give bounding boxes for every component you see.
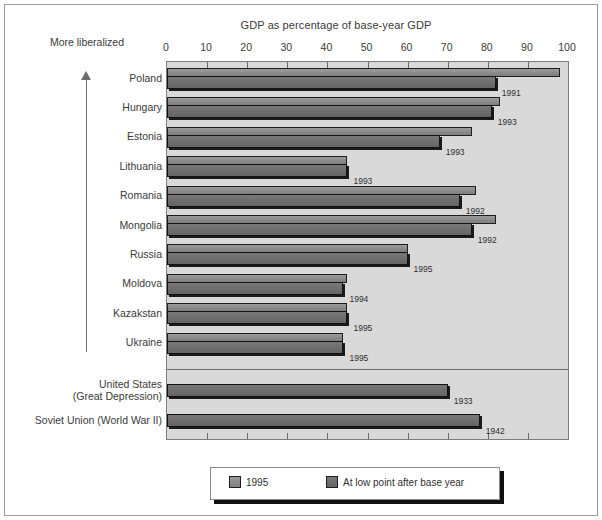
legend-label-1: At low point after base year	[343, 477, 464, 488]
category-label: Kazakstan	[12, 307, 162, 319]
x-tick-label-90: 90	[521, 41, 533, 53]
x-tick-bottom-10	[207, 433, 208, 439]
bar-row: 1993	[167, 156, 568, 180]
category-label: Ukraine	[12, 336, 162, 348]
x-tick-bottom-20	[247, 433, 248, 439]
bar-low-point-single	[167, 414, 480, 427]
bar-low-point	[167, 135, 440, 148]
low-point-year-label: 1995	[349, 353, 368, 363]
x-tick-bottom-40	[327, 433, 328, 439]
category-label: Romania	[12, 189, 162, 201]
x-tick-label-70: 70	[441, 41, 453, 53]
x-tick-label-40: 40	[321, 41, 333, 53]
category-label: United States (Great Depression)	[12, 378, 162, 402]
bar-low-point	[167, 76, 496, 89]
plot-area: 1991199319931993199219921995199419951995…	[166, 61, 569, 440]
category-label: Russia	[12, 248, 162, 260]
x-tick-label-80: 80	[481, 41, 493, 53]
bar-row: 1991	[167, 68, 568, 92]
x-tick-label-0: 0	[163, 41, 169, 53]
legend-item-1: At low point after base year	[326, 476, 464, 488]
category-label: Estonia	[12, 130, 162, 142]
bar-row: 1995	[167, 333, 568, 357]
bar-row: 1992	[167, 186, 568, 210]
category-label-column: PolandHungaryEstoniaLithuaniaRomaniaMong…	[10, 61, 162, 438]
bar-low-point	[167, 341, 343, 354]
category-label: Soviet Union (World War II)	[12, 414, 162, 426]
low-point-year-label: 1933	[454, 396, 473, 406]
category-label: Lithuania	[12, 160, 162, 172]
x-tick-bottom-70	[448, 433, 449, 439]
x-tick-bottom-30	[287, 433, 288, 439]
legend-swatch-0	[229, 476, 241, 488]
legend-item-0: 1995	[229, 476, 268, 488]
bar-low-point-single	[167, 384, 448, 397]
bar-row: 1993	[167, 97, 568, 121]
x-tick-label-30: 30	[280, 41, 292, 53]
bar-low-point	[167, 164, 347, 177]
x-tick-bottom-50	[368, 433, 369, 439]
bar-low-point	[167, 223, 472, 236]
x-tick-label-10: 10	[200, 41, 212, 53]
x-tick-label-60: 60	[401, 41, 413, 53]
category-label: Poland	[12, 72, 162, 84]
bar-low-point	[167, 105, 492, 118]
bar-row: 1942	[167, 414, 568, 430]
x-tick-bottom-60	[408, 433, 409, 439]
category-label: Mongolia	[12, 219, 162, 231]
category-label: Hungary	[12, 101, 162, 113]
chart-legend: 1995At low point after base year	[210, 467, 500, 500]
plot-inner: 1991199319931993199219921995199419951995…	[167, 62, 568, 439]
chart-title-text: GDP as percentage of base-year GDP	[241, 19, 432, 31]
x-tick-label-50: 50	[361, 41, 373, 53]
bar-low-point	[167, 282, 343, 295]
bar-row: 1993	[167, 127, 568, 151]
category-label: Moldova	[12, 277, 162, 289]
x-tick-label-20: 20	[240, 41, 252, 53]
chart-frame: GDP as percentage of base-year GDP More …	[4, 4, 598, 516]
bar-row: 1933	[167, 384, 568, 400]
bar-low-point	[167, 252, 408, 265]
bar-low-point	[167, 194, 460, 207]
group-divider	[167, 369, 568, 370]
bar-low-point	[167, 311, 347, 324]
x-axis-tick-labels: 0102030405060708090100	[5, 41, 602, 55]
bar-row: 1994	[167, 274, 568, 298]
bar-row: 1992	[167, 215, 568, 239]
legend-label-0: 1995	[246, 477, 268, 488]
x-tick-label-100: 100	[558, 41, 576, 53]
legend-swatch-1	[326, 476, 338, 488]
bar-row: 1995	[167, 303, 568, 327]
chart-title: GDP as percentage of base-year GDP	[5, 19, 602, 31]
bar-row: 1995	[167, 244, 568, 268]
x-tick-bottom-90	[528, 433, 529, 439]
low-point-year-label: 1942	[486, 426, 505, 436]
